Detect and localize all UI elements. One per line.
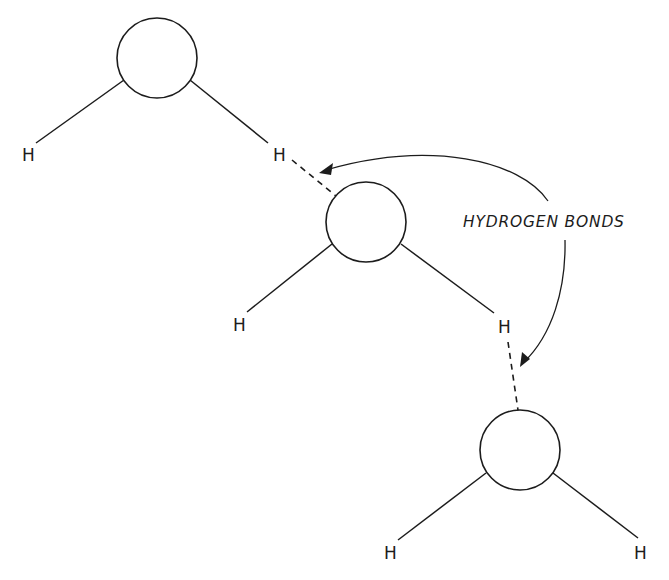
oxygen-atom (117, 18, 197, 98)
hydrogen-atom-label: H (22, 145, 35, 165)
arrow-head-icon (520, 352, 530, 367)
covalent-bond-right (553, 473, 638, 538)
hydrogen-bond-dashed-2 (508, 342, 518, 410)
covalent-bond-right (190, 80, 268, 143)
water-molecule-1: H H (22, 18, 286, 165)
arrow-head-icon (319, 163, 333, 175)
covalent-bond-right (401, 244, 494, 313)
hydrogen-atom-label: H (498, 317, 511, 337)
hydrogen-atom-label: H (233, 315, 246, 335)
callout-arrow-lower (524, 240, 565, 362)
covalent-bond-left (398, 473, 486, 540)
oxygen-atom (480, 410, 560, 490)
oxygen-atom (326, 182, 406, 262)
covalent-bond-left (247, 244, 332, 312)
hydrogen-atom-label: H (273, 145, 286, 165)
water-molecule-2: H H (233, 182, 511, 337)
covalent-bond-left (36, 80, 124, 143)
hydrogen-atom-label: H (634, 543, 647, 563)
hydrogen-bond-dashed-1 (292, 160, 336, 196)
hydrogen-bonds-label: HYDROGEN BONDS (463, 213, 625, 231)
hydrogen-atom-label: H (384, 543, 397, 563)
hydrogen-bond-diagram: H H H H H H HYDROGEN BONDS (0, 0, 669, 580)
water-molecule-3: H H (384, 410, 647, 563)
